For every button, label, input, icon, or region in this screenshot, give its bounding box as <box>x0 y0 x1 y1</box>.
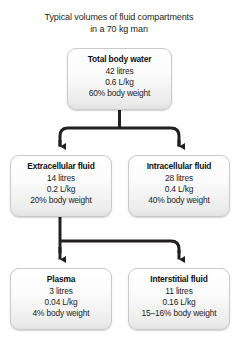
node-interstitial-fluid: Interstitial fluid 11 litres 0.16 L/kg 1… <box>128 268 230 330</box>
node-intracellular-fluid: Intracellular fluid 28 litres 0.4 L/kg 4… <box>128 155 230 217</box>
diagram-title-line-2: in a 70 kg man <box>0 24 238 36</box>
node-extracellular-fluid-percent: 20% body weight <box>11 195 111 206</box>
node-interstitial-fluid-volume: 11 litres <box>129 286 229 297</box>
node-interstitial-fluid-title: Interstitial fluid <box>129 274 229 286</box>
node-plasma-volume: 3 litres <box>11 286 111 297</box>
node-intracellular-fluid-title: Intracellular fluid <box>129 161 229 173</box>
node-extracellular-fluid-volume: 14 litres <box>11 173 111 184</box>
node-intracellular-fluid-volume: 28 litres <box>129 173 229 184</box>
node-extracellular-fluid: Extracellular fluid 14 litres 0.2 L/kg 2… <box>10 155 112 217</box>
node-extracellular-fluid-title: Extracellular fluid <box>11 161 111 173</box>
node-intracellular-fluid-percent: 40% body weight <box>129 195 229 206</box>
diagram-title: Typical volumes of fluid compartments in… <box>0 12 238 35</box>
node-extracellular-fluid-per-kg: 0.2 L/kg <box>11 184 111 195</box>
node-interstitial-fluid-percent: 15–16% body weight <box>129 308 229 319</box>
node-total-body-water-per-kg: 0.6 L/kg <box>68 77 171 88</box>
diagram-title-line-1: Typical volumes of fluid compartments <box>0 12 238 24</box>
node-plasma: Plasma 3 litres 0.04 L/kg 4% body weight <box>10 268 112 330</box>
node-total-body-water: Total body water 42 litres 0.6 L/kg 60% … <box>67 48 172 110</box>
node-plasma-title: Plasma <box>11 274 111 286</box>
node-total-body-water-volume: 42 litres <box>68 66 171 77</box>
node-total-body-water-percent: 60% body weight <box>68 88 171 99</box>
node-intracellular-fluid-per-kg: 0.4 L/kg <box>129 184 229 195</box>
connector-ecf-branch <box>60 241 179 253</box>
node-plasma-percent: 4% body weight <box>11 308 111 319</box>
connector-tbw-split <box>60 128 179 147</box>
fluid-compartments-diagram: Typical volumes of fluid compartments in… <box>0 0 238 342</box>
node-plasma-per-kg: 0.04 L/kg <box>11 297 111 308</box>
node-interstitial-fluid-per-kg: 0.16 L/kg <box>129 297 229 308</box>
node-total-body-water-title: Total body water <box>68 54 171 66</box>
